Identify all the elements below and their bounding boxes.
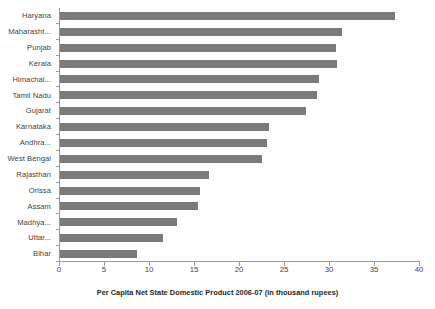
y-axis-label-madhya: Madhya... [0, 214, 55, 230]
x-tick-label-40: 40 [415, 266, 424, 274]
y-tick [56, 135, 59, 151]
x-tick-label-5: 5 [102, 266, 106, 274]
y-tick [56, 56, 59, 72]
y-axis-category-labels: Haryana Maharasht... Punjab Kerala Himac… [0, 8, 55, 262]
bar-chart: Haryana Maharasht... Punjab Kerala Himac… [0, 0, 435, 309]
x-tick-label-0: 0 [57, 266, 61, 274]
y-axis-label-uttar: Uttar... [0, 230, 55, 246]
bar-row [60, 103, 420, 119]
clipped-legend-strip [0, 304, 435, 309]
y-axis-label-haryana: Haryana [0, 8, 55, 24]
bar-row [60, 214, 420, 230]
y-tick [56, 230, 59, 246]
y-tick [56, 199, 59, 215]
bar-haryana [60, 12, 395, 20]
y-tick [56, 119, 59, 135]
y-tick [56, 214, 59, 230]
bar-kerala [60, 60, 337, 68]
bar-assam [60, 202, 198, 210]
bar-row [60, 246, 420, 262]
y-axis-label-west-bengal: West Bengal [0, 151, 55, 167]
y-tick [56, 183, 59, 199]
y-tick [56, 167, 59, 183]
bar-west-bengal [60, 155, 262, 163]
x-tick-label-10: 10 [145, 266, 154, 274]
y-axis-label-rajasthan: Rajasthan [0, 167, 55, 183]
x-tick-label-30: 30 [325, 266, 334, 274]
x-tick-label-25: 25 [280, 266, 289, 274]
bar-row [60, 8, 420, 24]
bar-tamil-nadu [60, 91, 317, 99]
bar-bihar [60, 250, 137, 258]
y-axis-label-gujarat: Gujarat [0, 103, 55, 119]
bar-andhra [60, 139, 267, 147]
x-tick-label-20: 20 [235, 266, 244, 274]
y-axis-label-tamil-nadu: Tamil Nadu [0, 87, 55, 103]
bar-row [60, 40, 420, 56]
y-axis-label-himachal: Himachal... [0, 72, 55, 88]
bar-madhya [60, 218, 177, 226]
bar-orissa [60, 187, 200, 195]
y-axis-label-orissa: Orissa [0, 183, 55, 199]
y-tick [56, 87, 59, 103]
bar-maharashtra [60, 28, 342, 36]
bar-row [60, 151, 420, 167]
bar-row [60, 24, 420, 40]
y-axis-ticks [56, 8, 59, 262]
bar-row [60, 72, 420, 88]
bar-row [60, 119, 420, 135]
y-tick [56, 246, 59, 262]
y-axis-label-kerala: Kerala [0, 56, 55, 72]
bar-row [60, 230, 420, 246]
bar-uttar [60, 234, 163, 242]
bar-himachal [60, 75, 319, 83]
x-axis-title: Per Capita Net State Domestic Product 20… [0, 288, 435, 297]
y-tick [56, 151, 59, 167]
y-axis-label-andhra: Andhra... [0, 135, 55, 151]
y-axis-label-assam: Assam [0, 199, 55, 215]
y-axis-label-bihar: Bihar [0, 246, 55, 262]
y-tick [56, 40, 59, 56]
bar-row [60, 183, 420, 199]
bar-row [60, 199, 420, 215]
x-axis-tick-labels: 0510152025303540 [59, 266, 420, 278]
bar-row [60, 56, 420, 72]
bar-karnataka [60, 123, 269, 131]
x-tick-label-35: 35 [370, 266, 379, 274]
y-tick [56, 103, 59, 119]
x-tick-label-15: 15 [190, 266, 199, 274]
plot-area [59, 8, 420, 262]
bar-rajasthan [60, 171, 209, 179]
y-axis-label-punjab: Punjab [0, 40, 55, 56]
bar-row [60, 135, 420, 151]
y-axis-label-karnataka: Karnataka [0, 119, 55, 135]
y-tick [56, 24, 59, 40]
y-tick [56, 72, 59, 88]
y-tick [56, 8, 59, 24]
bar-punjab [60, 44, 336, 52]
y-axis-label-maharashtra: Maharasht... [0, 24, 55, 40]
bar-row [60, 87, 420, 103]
bar-row [60, 167, 420, 183]
bar-gujarat [60, 107, 306, 115]
bar-series [60, 8, 420, 262]
